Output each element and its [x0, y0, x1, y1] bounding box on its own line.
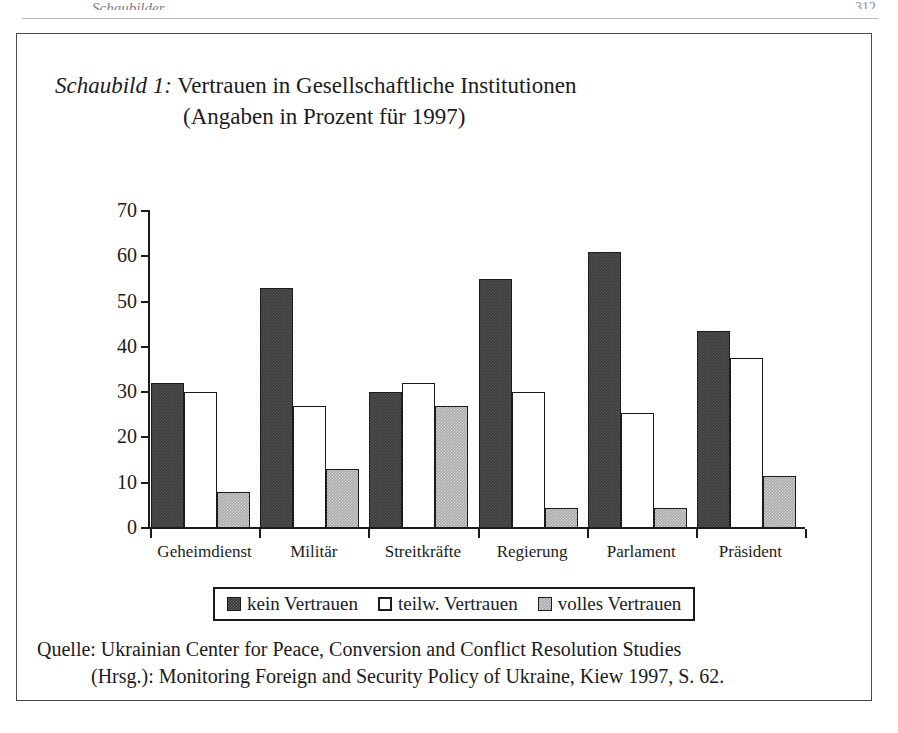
legend-label: volles Vertrauen — [558, 594, 682, 614]
x-axis-tick — [259, 529, 261, 538]
bars-layer — [150, 211, 805, 528]
y-axis-tick — [141, 527, 150, 529]
figure-source: Quelle: Ukrainian Center for Peace, Conv… — [37, 636, 857, 690]
y-axis-tick — [141, 391, 150, 393]
page-number: 312 — [836, 0, 876, 9]
bar — [184, 392, 217, 528]
bar — [151, 383, 184, 528]
legend-swatch-icon — [227, 597, 241, 611]
y-axis-tick — [141, 301, 150, 303]
bar — [512, 392, 545, 528]
bar — [260, 288, 293, 528]
bar — [763, 476, 796, 528]
legend-swatch-icon — [378, 597, 392, 611]
bar — [369, 392, 402, 528]
page-header-left-text: Schaubilder — [92, 0, 212, 10]
x-axis-tick — [587, 529, 589, 538]
y-axis-tick-label: 0 — [101, 517, 137, 537]
x-axis-tick — [696, 529, 698, 538]
bar — [326, 469, 359, 528]
y-axis-tick-label: 70 — [101, 200, 137, 220]
bar — [545, 508, 578, 528]
page-header: Schaubilder 312 — [0, 0, 898, 26]
y-axis-tick-label: 20 — [101, 426, 137, 446]
y-axis-tick-label: 60 — [101, 245, 137, 265]
bar — [217, 492, 250, 528]
y-axis-tick-label: 30 — [101, 381, 137, 401]
bar — [697, 331, 730, 528]
bar — [435, 406, 468, 528]
bar — [588, 252, 621, 528]
legend-label: teilw. Vertrauen — [398, 594, 518, 614]
x-axis-tick — [368, 529, 370, 538]
bar — [621, 413, 654, 528]
y-axis-tick-label: 40 — [101, 336, 137, 356]
bar — [654, 508, 687, 528]
legend-item: volles Vertrauen — [538, 594, 682, 614]
chart-legend: kein Vertrauenteilw. Vertrauenvolles Ver… — [213, 587, 695, 621]
x-axis-category-label: Präsident — [675, 542, 825, 562]
page-header-rule — [22, 18, 878, 19]
legend-swatch-icon — [538, 597, 552, 611]
legend-label: kein Vertrauen — [247, 594, 358, 614]
bar — [402, 383, 435, 528]
x-axis-tick — [478, 529, 480, 538]
source-line-1: Quelle: Ukrainian Center for Peace, Conv… — [37, 638, 681, 660]
y-axis-tick — [141, 482, 150, 484]
x-axis-tick — [150, 529, 152, 538]
legend-item: kein Vertrauen — [227, 594, 358, 614]
x-axis-tick — [805, 529, 807, 538]
y-axis-tick-label: 10 — [101, 472, 137, 492]
bar — [293, 406, 326, 528]
figure-frame: Schaubild 1: Vertrauen in Gesellschaftli… — [16, 33, 872, 701]
y-axis-tick — [141, 346, 150, 348]
y-axis-tick-label: 50 — [101, 291, 137, 311]
bar — [479, 279, 512, 528]
source-line-2: (Hrsg.): Monitoring Foreign and Security… — [37, 663, 857, 690]
legend-item: teilw. Vertrauen — [378, 594, 518, 614]
y-axis-tick — [141, 436, 150, 438]
bar — [730, 358, 763, 528]
y-axis-tick — [141, 255, 150, 257]
y-axis-tick — [141, 210, 150, 212]
